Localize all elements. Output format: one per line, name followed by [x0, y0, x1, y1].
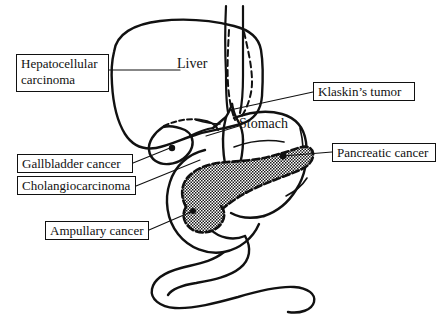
label-pancreatic-cancer[interactable]: Pancreatic cancer — [332, 143, 436, 162]
label-gallbladder-cancer[interactable]: Gallbladder cancer — [17, 154, 133, 173]
pancreas-shape — [182, 147, 313, 233]
label-hepatocellular-carcinoma[interactable]: Hepatocellular carcinoma — [16, 54, 109, 92]
gallbladder-shape — [149, 119, 218, 164]
label-hepatocellular-line1: Hepatocellular — [21, 56, 98, 71]
label-cholangiocarcinoma[interactable]: Cholangiocarcinoma — [17, 176, 136, 195]
label-liver: Liver — [177, 56, 207, 72]
label-ampullary-cancer[interactable]: Ampullary cancer — [45, 221, 149, 240]
label-klatskin-tumor[interactable]: Klaskin’s tumor — [313, 82, 415, 101]
label-hepatocellular-line2: carcinoma — [21, 72, 75, 87]
anatomical-figure: Hepatocellular carcinoma Gallbladder can… — [0, 0, 444, 325]
label-stomach: Stomach — [239, 116, 288, 132]
small-intestine-shape — [152, 236, 315, 313]
leader-line-gallbladder — [133, 148, 170, 163]
